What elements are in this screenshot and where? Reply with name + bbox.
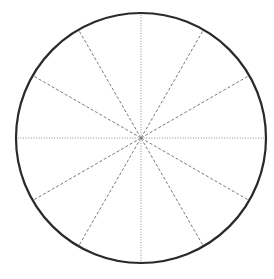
radial-line-240 bbox=[79, 138, 142, 246]
radial-line-210 bbox=[33, 138, 141, 201]
radial-line-60 bbox=[141, 30, 204, 138]
radial-line-300 bbox=[141, 138, 204, 246]
radial-line-150 bbox=[33, 76, 141, 139]
radial-line-30 bbox=[141, 76, 249, 139]
radial-line-330 bbox=[141, 138, 249, 201]
circle-diagram bbox=[0, 0, 274, 279]
radial-line-120 bbox=[79, 30, 142, 138]
radial-lines bbox=[16, 13, 266, 263]
